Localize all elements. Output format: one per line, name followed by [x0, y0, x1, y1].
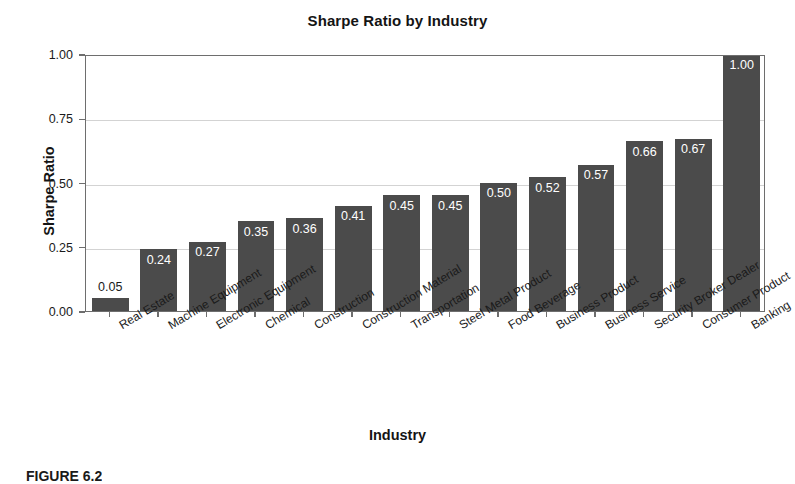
- x-axis-tick: [157, 312, 158, 317]
- bars-layer: 0.050.240.270.350.360.410.450.450.500.52…: [86, 56, 764, 311]
- bar-value-label: 0.45: [377, 200, 426, 213]
- bar-slot: 0.27: [183, 56, 232, 311]
- x-axis-tick-label: Food Beverage: [506, 321, 512, 331]
- bar-value-label: 1.00: [717, 59, 765, 72]
- bar-slot: 0.45: [377, 56, 426, 311]
- y-axis-tick: [79, 311, 85, 312]
- x-axis-tick-label: Electronic Equipment: [214, 321, 220, 331]
- bar-slot: 0.05: [86, 56, 135, 311]
- x-axis-tick-label: Banking: [749, 321, 755, 331]
- y-axis-tick-label: 0.25: [27, 242, 73, 255]
- bar-slot: 0.41: [329, 56, 378, 311]
- bar-value-label: 0.36: [280, 223, 329, 236]
- bar-value-label: 0.57: [572, 169, 621, 182]
- x-axis-tick: [206, 312, 207, 317]
- bar-value-label: 0.24: [135, 254, 184, 267]
- y-axis-tick-label: 0.75: [27, 113, 73, 126]
- bar-value-label: 0.67: [669, 143, 718, 156]
- x-axis-title: Industry: [0, 427, 795, 443]
- x-axis-tick: [497, 312, 498, 317]
- bar-value-label: 0.52: [523, 182, 572, 195]
- bar-value-label: 0.66: [620, 146, 669, 159]
- y-axis-tick: [79, 183, 85, 184]
- x-axis-tick-label: Machine Equipment: [166, 321, 172, 331]
- bar-slot: 0.57: [572, 56, 621, 311]
- x-axis-tick-label: Consumer Product: [700, 321, 706, 331]
- bar-value-label: 0.50: [475, 187, 524, 200]
- x-axis-tick-label: Construction: [312, 321, 318, 331]
- x-axis-tick: [643, 312, 644, 317]
- bar-slot: 0.50: [475, 56, 524, 311]
- x-axis-tick: [691, 312, 692, 317]
- x-axis-tick: [109, 312, 110, 317]
- x-axis-tick-label: Transportation: [409, 321, 415, 331]
- x-axis-tick-label: Business Product: [554, 321, 560, 331]
- x-axis-tick: [254, 312, 255, 317]
- x-axis-tick: [303, 312, 304, 317]
- x-axis-tick: [449, 312, 450, 317]
- y-axis-tick: [79, 54, 85, 55]
- figure-container: Sharpe Ratio by Industry Sharpe Ratio 0.…: [0, 0, 795, 484]
- x-axis-tick-label: Steel Metal Product: [457, 321, 463, 331]
- y-axis-tick: [79, 247, 85, 248]
- x-axis-tick-label: Construction Material: [360, 321, 366, 331]
- figure-caption: FIGURE 6.2: [26, 468, 102, 484]
- bar-value-label: 0.45: [426, 200, 475, 213]
- bar-value-label: 0.41: [329, 210, 378, 223]
- bar-value-label: 0.27: [183, 246, 232, 259]
- bar-value-label: 0.05: [86, 281, 135, 294]
- chart-title: Sharpe Ratio by Industry: [0, 12, 795, 29]
- bar-value-label: 0.35: [232, 226, 281, 239]
- x-axis-tick: [546, 312, 547, 317]
- y-axis-tick-label: 1.00: [27, 49, 73, 62]
- y-axis-tick-label: 0.00: [27, 306, 73, 319]
- x-axis-tick-label: Chemical: [263, 321, 269, 331]
- x-axis-tick: [351, 312, 352, 317]
- y-axis-tick-label: 0.50: [27, 178, 73, 191]
- x-axis-tick-label: Security Broker Dealer: [652, 321, 658, 331]
- x-axis-tick-label: Business Service: [603, 321, 609, 331]
- x-axis-tick: [594, 312, 595, 317]
- y-axis-tick: [79, 119, 85, 120]
- plot-area: 0.050.240.270.350.360.410.450.450.500.52…: [85, 55, 765, 312]
- bar-slot: 0.67: [669, 56, 718, 311]
- bar-slot: 0.66: [620, 56, 669, 311]
- x-axis-tick-label: Real Estate: [117, 321, 123, 331]
- x-axis-tick: [400, 312, 401, 317]
- bar-slot: 0.24: [135, 56, 184, 311]
- x-axis-tick: [740, 312, 741, 317]
- bar[interactable]: [92, 298, 129, 311]
